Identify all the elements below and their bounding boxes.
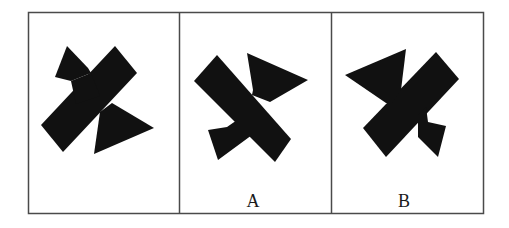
option-b-label: B bbox=[389, 192, 419, 210]
puzzle-figure: A B bbox=[0, 0, 509, 228]
option-a-label: A bbox=[238, 192, 268, 210]
